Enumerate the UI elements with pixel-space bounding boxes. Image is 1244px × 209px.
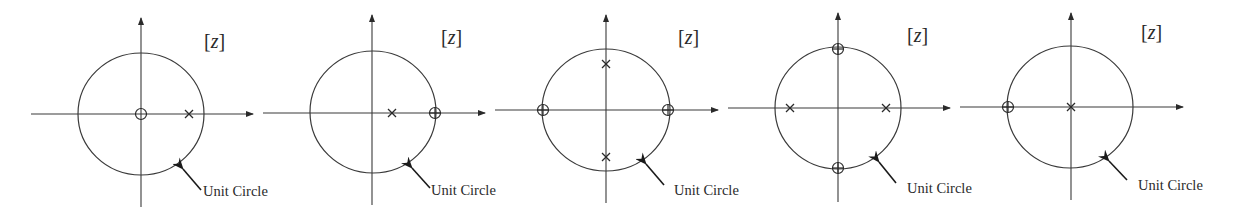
pole-zero-figure: [z] Unit Circle [z] Unit Circle (0, 0, 1244, 209)
zero-marker (1003, 102, 1014, 113)
pole-zero-plot-1: [z] Unit Circle (31, 18, 268, 207)
unit-circle-label: Unit Circle (1138, 177, 1203, 193)
z-plane-label: [z] (441, 26, 462, 48)
unit-circle-label: Unit Circle (907, 180, 972, 196)
unit-circle (310, 51, 436, 173)
pole-zero-plot-2: [z] Unit Circle (263, 15, 496, 205)
zero-marker (833, 44, 844, 55)
pole-zero-plot-3: [z] Unit Circle (495, 15, 739, 203)
arrow-icon (183, 169, 201, 190)
unit-circle-label: Unit Circle (203, 183, 268, 199)
unit-circle-label: Unit Circle (431, 182, 496, 198)
zero-marker (538, 105, 549, 116)
zero-marker (430, 108, 441, 119)
pole-zero-plot-4: [z] Unit Circle (728, 13, 972, 202)
z-plane-label: [z] (1141, 21, 1162, 43)
zero-marker (833, 163, 844, 174)
unit-circle-label: Unit Circle (674, 182, 739, 198)
arrow-icon (646, 164, 664, 185)
z-plane-label: [z] (678, 26, 699, 48)
arrow-icon (412, 168, 430, 188)
pole-zero-plot-5: [z] Unit Circle (960, 13, 1203, 200)
arrow-icon (1109, 161, 1127, 180)
z-plane-label: [z] (204, 30, 225, 52)
zero-marker (663, 105, 674, 116)
arrow-icon (879, 162, 896, 183)
z-plane-label: [z] (907, 24, 928, 46)
